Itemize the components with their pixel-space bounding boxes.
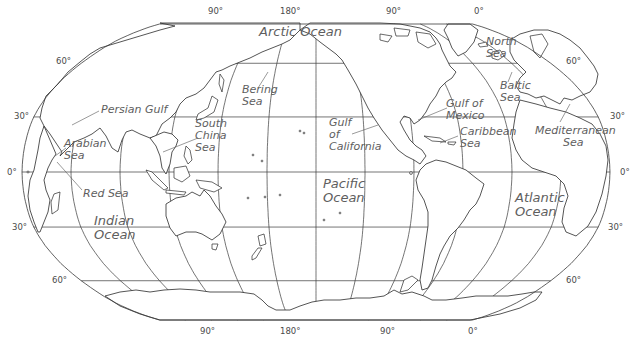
tasmania-island <box>212 244 218 250</box>
africa-landmass <box>28 126 56 232</box>
latitude-label: 0° <box>620 167 630 177</box>
australia-landmass <box>166 190 226 240</box>
pacific-island <box>323 219 325 221</box>
philippines-island <box>184 146 192 164</box>
pacific-island <box>247 197 249 199</box>
north-sea-label: North Sea <box>486 36 517 60</box>
antarctica-landmass <box>105 289 542 320</box>
longitude-label: 90° <box>200 326 215 336</box>
seychelles-island <box>27 171 29 173</box>
landmasses <box>27 23 608 320</box>
hawaii-islands <box>303 132 305 134</box>
world-map: 90°180°90°0° 90°180°90°0° 60°30°0°30°60°… <box>0 0 636 348</box>
latitude-label: 60° <box>56 56 71 66</box>
pacific-island <box>252 154 254 156</box>
pacific-ocean-label: Pacific Ocean <box>323 177 365 205</box>
longitude-label: 90° <box>380 326 395 336</box>
baltic-sea-label: Baltic Sea <box>500 80 531 104</box>
south-america-landmass <box>416 160 484 290</box>
longitude-label: 90° <box>386 6 401 16</box>
latitude-label: 60° <box>566 56 581 66</box>
longitude-label: 90° <box>208 6 223 16</box>
new-zealand-north-island <box>258 234 266 246</box>
hawaii-islands <box>299 130 301 132</box>
south-china-sea-label: South China Sea <box>195 118 227 154</box>
gulf-of-mexico-label: Gulf of Mexico <box>446 98 485 122</box>
antarctic-peninsula <box>400 276 418 292</box>
hispaniola-island <box>448 142 456 145</box>
arabian-sea-label: Arabian Sea <box>64 138 107 162</box>
sakhalin-island <box>219 74 224 92</box>
caribbean-sea-label: Caribbean Sea <box>460 126 516 150</box>
pacific-island <box>339 212 341 214</box>
longitude-label: 0° <box>474 6 484 16</box>
map-canvas <box>0 0 636 348</box>
red-sea-label: Red Sea <box>83 188 128 200</box>
latitude-label: 0° <box>7 167 17 177</box>
latitude-label: 30° <box>610 111 625 121</box>
java-island <box>166 190 186 195</box>
latitude-label: 30° <box>608 222 623 232</box>
latitude-label: 30° <box>12 222 27 232</box>
latitude-label: 30° <box>14 111 29 121</box>
longitude-label: 180° <box>280 326 300 336</box>
new-zealand-south-island <box>252 248 262 260</box>
greenland-landmass <box>444 24 478 56</box>
red-sea-leader-line <box>57 162 82 190</box>
arctic-ocean-label: Arctic Ocean <box>259 25 342 39</box>
latitude-label: 60° <box>566 275 581 285</box>
longitude-label: 180° <box>280 6 300 16</box>
borneo-island <box>174 166 190 182</box>
bering-sea-label: Bering Sea <box>242 84 278 108</box>
madagascar-island <box>51 192 60 214</box>
atlantic-ocean-label: Atlantic Ocean <box>515 191 565 219</box>
pacific-island <box>264 196 266 198</box>
mediterranean-sea-label: Mediterranean Sea <box>535 125 616 149</box>
galapagos-island <box>410 172 413 175</box>
persian-gulf-label: Persian Gulf <box>101 104 167 116</box>
pacific-island <box>261 160 263 162</box>
gulf-of-california-label: Gulf of California <box>329 117 381 153</box>
cuba-island <box>424 136 446 142</box>
longitude-label: 0° <box>468 326 478 336</box>
sumatra-island <box>146 170 168 190</box>
pacific-island <box>279 194 281 196</box>
latitude-label: 60° <box>52 275 67 285</box>
indian-ocean-label: Indian Ocean <box>94 214 136 242</box>
